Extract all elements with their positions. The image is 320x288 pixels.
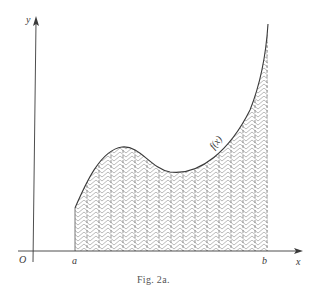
figure-caption: Fig. 2a. xyxy=(137,274,170,285)
figure-canvas: y O a b x f(x) Fig. 2a. xyxy=(0,0,320,288)
x-axis-label: x xyxy=(295,256,301,267)
y-axis-label: y xyxy=(25,14,31,25)
interval-start-label: a xyxy=(72,255,77,266)
interval-end-label: b xyxy=(262,255,267,266)
shaded-area xyxy=(70,20,270,255)
origin-label: O xyxy=(19,254,26,265)
y-axis xyxy=(33,22,36,262)
